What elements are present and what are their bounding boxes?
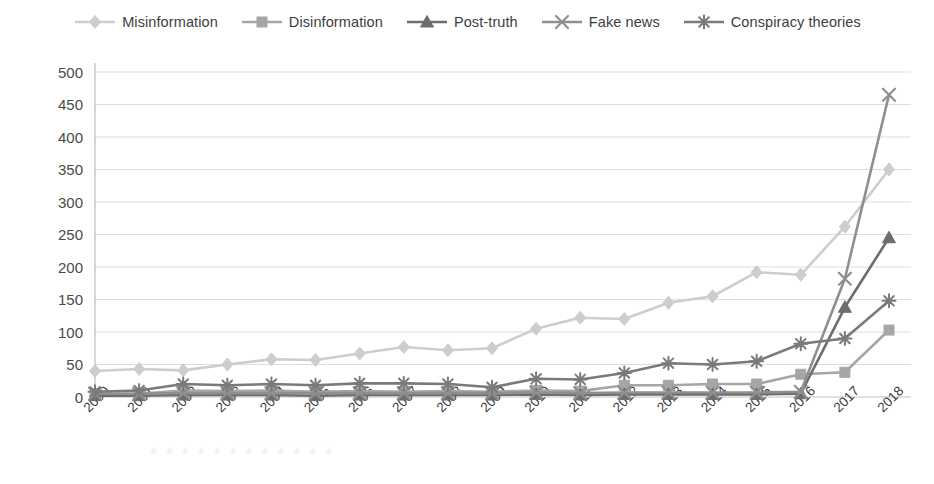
data-point-marker xyxy=(619,313,630,326)
data-point-marker xyxy=(265,378,278,391)
y-axis-tick-label: 400 xyxy=(58,129,83,146)
data-point-marker xyxy=(486,381,499,394)
gridlines: 050100150200250300350400450500 xyxy=(58,64,911,406)
data-point-marker xyxy=(397,377,410,390)
data-point-marker xyxy=(266,353,277,366)
x-axis-tick-label: 2018 xyxy=(875,383,907,415)
series-post-truth xyxy=(89,231,896,400)
data-point-marker xyxy=(530,372,543,385)
data-point-marker xyxy=(89,385,102,398)
data-point-marker xyxy=(618,366,631,379)
data-point-marker xyxy=(309,379,322,392)
data-point-marker xyxy=(221,379,234,392)
data-point-marker xyxy=(398,340,409,353)
y-axis-tick-label: 500 xyxy=(58,64,83,81)
chart-container: MisinformationDisinformationPost-truthFa… xyxy=(0,0,934,484)
y-axis-tick-label: 50 xyxy=(66,356,83,373)
data-point-marker xyxy=(178,364,189,377)
data-point-marker xyxy=(441,378,454,391)
data-point-marker xyxy=(662,357,675,370)
data-point-marker xyxy=(575,311,586,324)
y-axis-tick-label: 100 xyxy=(58,324,83,341)
y-axis-tick-label: 200 xyxy=(58,259,83,276)
data-point-marker xyxy=(884,325,894,335)
data-point-marker xyxy=(222,358,233,371)
data-point-marker xyxy=(840,367,850,377)
data-point-marker xyxy=(353,377,366,390)
data-point-marker xyxy=(706,358,719,371)
data-point-marker xyxy=(794,337,807,350)
y-axis-tick-label: 300 xyxy=(58,194,83,211)
series-line xyxy=(95,238,889,396)
data-point-marker xyxy=(663,296,674,309)
y-axis-tick-label: 250 xyxy=(58,226,83,243)
y-axis-tick-label: 150 xyxy=(58,291,83,308)
data-point-marker xyxy=(838,332,851,345)
data-point-marker xyxy=(574,373,587,386)
data-point-marker xyxy=(133,384,146,397)
y-axis-tick-label: 450 xyxy=(58,96,83,113)
data-point-marker xyxy=(883,231,896,243)
data-point-marker xyxy=(442,344,453,357)
x-axis-tick-label: 2017 xyxy=(830,383,862,415)
series-misinformation xyxy=(90,163,895,378)
data-point-marker xyxy=(751,266,762,279)
plot-area: 0501001502002503003504004505002000200120… xyxy=(0,0,934,484)
series-line xyxy=(95,170,889,372)
data-point-marker xyxy=(90,365,101,378)
data-point-marker xyxy=(796,369,806,379)
data-point-marker xyxy=(883,294,896,307)
data-point-marker xyxy=(177,378,190,391)
data-point-marker xyxy=(354,347,365,360)
data-point-marker xyxy=(487,342,498,355)
data-point-marker xyxy=(707,290,718,303)
line-chart-svg: 0501001502002503003504004505002000200120… xyxy=(0,0,934,484)
data-point-marker xyxy=(531,322,542,335)
data-point-marker xyxy=(750,355,763,368)
y-axis-tick-label: 350 xyxy=(58,161,83,178)
